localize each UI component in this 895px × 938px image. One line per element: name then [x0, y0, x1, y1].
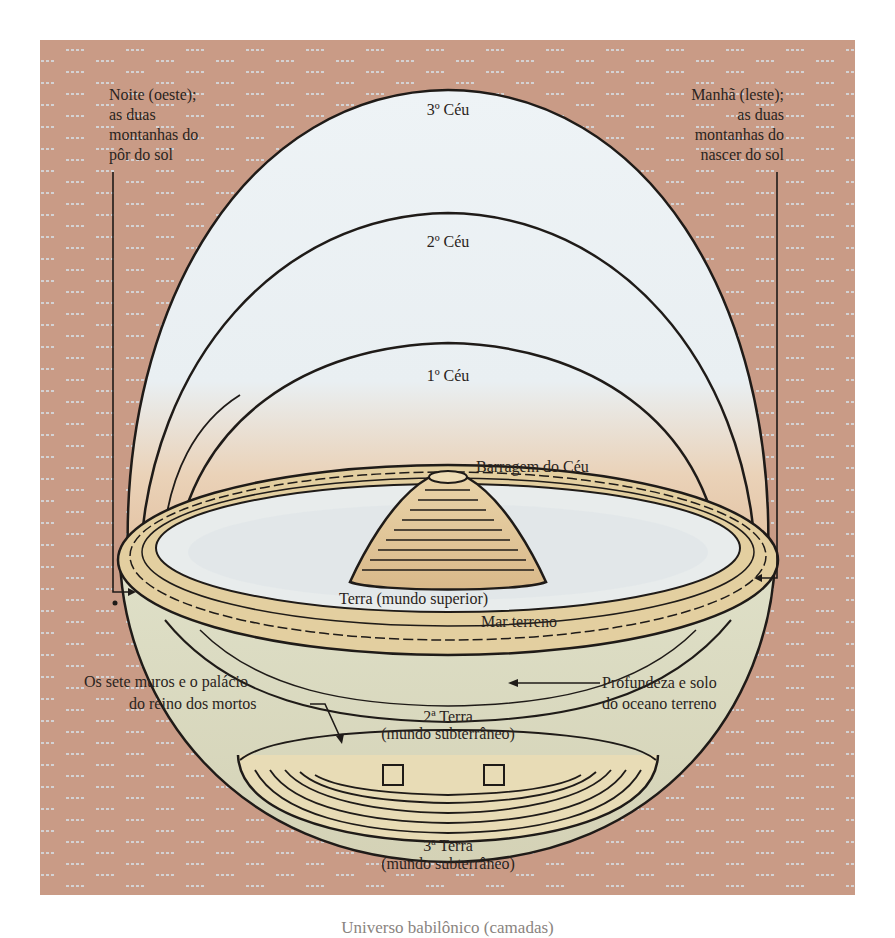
label-earth-upper: Terra (mundo superior): [339, 590, 488, 608]
label-depth-line-2: do oceano terreno: [602, 695, 717, 712]
label-east-line-2: as duas: [737, 106, 784, 123]
label-third-heaven: 3º Céu: [427, 101, 470, 118]
label-east-line-4: nascer do sol: [700, 146, 784, 163]
label-east-line-1: Manhã (leste);: [691, 86, 784, 104]
label-second-earth-line-2: (mundo subterrâneo): [381, 725, 515, 743]
label-earth-sea: Mar terreno: [481, 613, 557, 630]
label-west-line-4: pôr do sol: [109, 146, 174, 164]
label-second-heaven: 2º Céu: [427, 233, 470, 250]
label-west-line-1: Noite (oeste);: [109, 86, 197, 104]
label-west-line-3: montanhas do: [109, 126, 198, 143]
mountain-peak: [429, 471, 467, 483]
label-first-heaven: 1º Céu: [427, 367, 470, 384]
label-west-line-2: as duas: [109, 106, 156, 123]
label-heaven-dam: Barragem do Céu: [476, 458, 589, 476]
label-third-earth-line-2: (mundo subterrâneo): [381, 855, 515, 873]
label-walls-line-1: Os sete muros e o palácio: [84, 673, 248, 691]
palace-gate-right: [484, 765, 504, 785]
label-depth-line-1: Profundeza e solo: [602, 674, 717, 691]
label-east-line-3: montanhas do: [695, 126, 784, 143]
label-second-earth-line-1: 2ª Terra: [423, 708, 473, 725]
label-walls-line-2: do reino dos mortos: [129, 695, 257, 712]
palace-gate-left: [383, 765, 403, 785]
label-third-earth-line-1: 3ª Terra: [423, 837, 473, 854]
west-marker-dot: [113, 601, 118, 606]
figure-caption-cropped: Universo babilônico (camadas): [0, 918, 895, 938]
